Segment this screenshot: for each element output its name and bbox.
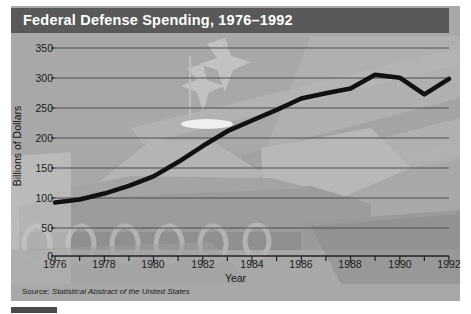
y-tick-label: 200 bbox=[35, 132, 53, 144]
chart-title-bar: Federal Defense Spending, 1976–1992 bbox=[11, 8, 449, 33]
x-tick-label: 1986 bbox=[289, 258, 312, 270]
source-text: Statistical Abstract of the United State… bbox=[52, 287, 190, 296]
y-tick-label: 350 bbox=[35, 42, 53, 54]
y-tick-label: 50 bbox=[41, 222, 53, 234]
y-tick-label: 150 bbox=[35, 162, 53, 174]
x-tick-label: 1976 bbox=[43, 258, 66, 270]
x-axis-title: Year bbox=[0, 272, 471, 284]
y-axis-title: Billions of Dollars bbox=[11, 86, 23, 206]
source-label: Source: bbox=[22, 287, 50, 296]
caption-strip-cutoff bbox=[0, 306, 471, 314]
x-tick-label: 1982 bbox=[191, 258, 214, 270]
plot-area bbox=[11, 36, 460, 284]
y-axis-tick-labels: 350 300 250 200 150 100 50 0 bbox=[26, 36, 53, 284]
x-tick-label: 1992 bbox=[437, 258, 460, 270]
y-tick-label: 100 bbox=[35, 192, 53, 204]
x-tick-label: 1978 bbox=[92, 258, 115, 270]
source-note: Source: Statistical Abstract of the Unit… bbox=[22, 287, 190, 296]
y-tick-label: 250 bbox=[35, 102, 53, 114]
caption-swatch bbox=[11, 307, 57, 313]
x-tick-label: 1980 bbox=[141, 258, 164, 270]
x-tick-label: 1984 bbox=[240, 258, 263, 270]
figure-container: Federal Defense Spending, 1976–1992 bbox=[0, 0, 471, 314]
defense-spending-line bbox=[55, 75, 449, 203]
y-tick-label: 300 bbox=[35, 72, 53, 84]
x-tick-label: 1988 bbox=[338, 258, 361, 270]
chart-plot bbox=[11, 36, 460, 284]
page-title: Federal Defense Spending, 1976–1992 bbox=[23, 12, 293, 28]
x-tick-label: 1990 bbox=[388, 258, 411, 270]
